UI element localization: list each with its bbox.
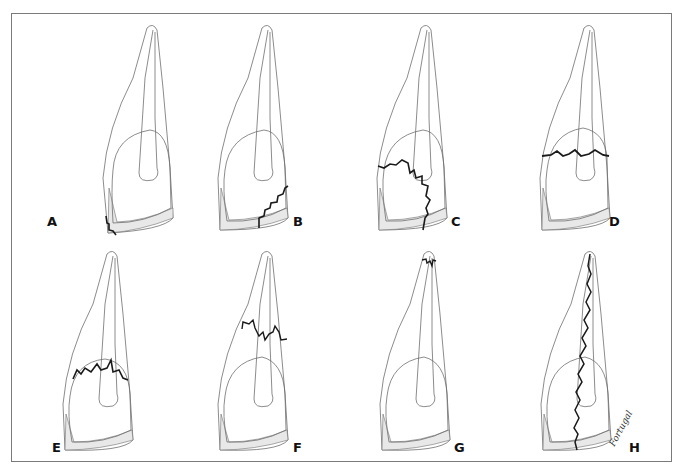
panel-b: B	[207, 18, 372, 243]
panel-label-g: G	[454, 440, 465, 455]
tooth-diagram-c	[370, 18, 535, 243]
panel-label-h: H	[629, 440, 640, 455]
tooth-diagram-e	[45, 244, 210, 469]
panel-label-e: E	[52, 440, 61, 455]
panel-a: A	[45, 18, 210, 243]
panel-label-c: C	[451, 214, 461, 229]
panel-label-d: D	[609, 214, 620, 229]
panel-label-f: F	[293, 440, 302, 455]
panel-label-a: A	[47, 214, 57, 229]
tooth-diagram-f	[207, 244, 372, 469]
panel-e: E	[45, 244, 210, 469]
tooth-diagram-a	[45, 18, 210, 243]
tooth-diagram-g	[370, 244, 535, 469]
panel-label-b: B	[293, 214, 303, 229]
panel-f: F	[207, 244, 372, 469]
tooth-diagram-b	[207, 18, 372, 243]
panel-d: D	[533, 18, 683, 243]
tooth-diagram-d	[533, 18, 683, 243]
panel-c: C	[370, 18, 535, 243]
panel-h: Fortugal H	[533, 244, 683, 469]
tooth-diagram-h	[533, 244, 683, 469]
panel-g: G	[370, 244, 535, 469]
